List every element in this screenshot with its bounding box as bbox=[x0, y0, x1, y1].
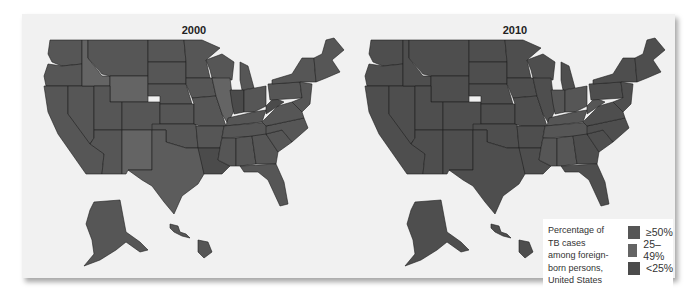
legend-item-lt25: <25% bbox=[628, 259, 673, 277]
legend-title-line: United States bbox=[548, 274, 620, 287]
state-mi bbox=[240, 62, 254, 90]
state-nd bbox=[469, 40, 507, 62]
state-ny bbox=[593, 58, 637, 84]
state-pa bbox=[268, 82, 302, 100]
state-ar bbox=[517, 126, 545, 148]
state-ak bbox=[405, 200, 469, 266]
state-hi bbox=[519, 240, 533, 258]
state-oh bbox=[565, 86, 587, 112]
state-wi bbox=[527, 54, 555, 80]
legend-title-line: among foreign- bbox=[548, 249, 620, 262]
legend-label: <25% bbox=[646, 262, 673, 275]
legend-title-line: Percentage of bbox=[548, 224, 620, 237]
state-nm bbox=[443, 130, 473, 174]
state-ne bbox=[148, 84, 192, 104]
state-wi bbox=[206, 54, 234, 80]
state-mi bbox=[561, 62, 575, 90]
state-ne-states bbox=[314, 38, 344, 82]
legend-swatch bbox=[628, 262, 640, 275]
state-hi-islands bbox=[170, 224, 190, 238]
state-fl bbox=[561, 164, 609, 206]
state-fl bbox=[240, 164, 288, 206]
us-map-2000 bbox=[22, 14, 352, 278]
state-wy bbox=[431, 76, 469, 102]
state-nd bbox=[148, 40, 186, 62]
legend-label: ≥50% bbox=[646, 226, 673, 239]
state-wy bbox=[110, 76, 148, 102]
legend-items: ≥50% 25–49% <25% bbox=[628, 223, 673, 277]
state-sd bbox=[148, 62, 186, 84]
legend-swatch bbox=[628, 226, 640, 239]
state-ia bbox=[507, 78, 537, 98]
state-oh bbox=[244, 86, 266, 112]
state-hi-islands bbox=[491, 224, 511, 238]
legend-swatch bbox=[628, 244, 637, 257]
state-or bbox=[44, 64, 82, 86]
state-pa bbox=[589, 82, 623, 100]
state-wa bbox=[369, 40, 403, 66]
map-legend: Percentage of TB cases among foreign- bo… bbox=[543, 219, 673, 289]
state-ne-states bbox=[635, 38, 665, 82]
legend-title: Percentage of TB cases among foreign- bo… bbox=[548, 224, 620, 287]
state-ks bbox=[481, 104, 515, 124]
legend-label: 25–49% bbox=[643, 238, 673, 263]
state-ar bbox=[196, 126, 224, 148]
state-ne bbox=[469, 84, 513, 104]
state-ia bbox=[186, 78, 216, 98]
legend-item-25-49: 25–49% bbox=[628, 241, 673, 259]
state-ny bbox=[272, 58, 316, 84]
state-sd bbox=[469, 62, 507, 84]
legend-title-line: born persons, bbox=[548, 262, 620, 275]
state-nm bbox=[122, 130, 152, 174]
state-hi bbox=[198, 240, 212, 258]
state-or bbox=[365, 64, 403, 86]
state-ak bbox=[84, 200, 148, 266]
state-wa bbox=[48, 40, 82, 66]
legend-title-line: TB cases bbox=[548, 237, 620, 250]
state-ks bbox=[160, 104, 194, 124]
